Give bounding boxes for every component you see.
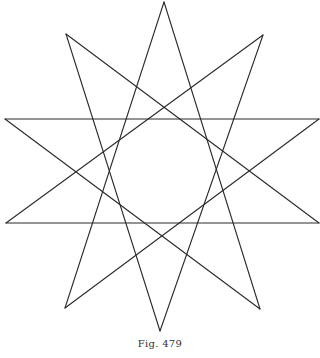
star-edge — [66, 34, 160, 331]
star-edge — [65, 119, 319, 308]
star-edge — [160, 35, 263, 331]
star-figure — [0, 0, 320, 335]
star-edge — [5, 119, 260, 309]
figure-caption: Fig. 479 — [0, 338, 320, 349]
star-edge — [65, 2, 164, 308]
star-edge — [66, 34, 319, 223]
